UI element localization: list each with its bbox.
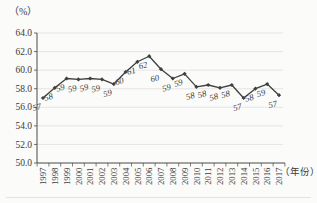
data-point-label: 59 bbox=[67, 82, 79, 94]
x-tick-label: 2006 bbox=[144, 167, 154, 185]
y-tick-label: 54.0 bbox=[15, 121, 32, 131]
data-point-label: 59 bbox=[90, 82, 102, 94]
data-point-label: 57 bbox=[232, 101, 244, 113]
x-tick-label: 2008 bbox=[168, 167, 178, 185]
x-tick-label: 1998 bbox=[50, 167, 60, 185]
x-tick-label: 2004 bbox=[121, 167, 131, 185]
line-chart: 64.062.060.058.056.054.052.050.057585959… bbox=[0, 0, 317, 203]
data-point-label: 62 bbox=[137, 59, 149, 71]
x-tick-label: 2005 bbox=[133, 167, 143, 185]
y-axis-unit-label: （%） bbox=[9, 7, 37, 17]
data-point-label: 61 bbox=[126, 65, 137, 77]
data-point-label: 58 bbox=[185, 90, 197, 102]
y-tick-label: 60.0 bbox=[15, 65, 32, 75]
data-point-marker bbox=[76, 77, 80, 81]
data-point-label: 57 bbox=[31, 101, 43, 113]
x-tick-label: 2001 bbox=[85, 168, 95, 186]
x-tick-label: 2002 bbox=[97, 168, 107, 186]
data-point-label: 60 bbox=[149, 72, 161, 84]
x-tick-label: 2012 bbox=[215, 168, 225, 186]
x-tick-label: 2000 bbox=[74, 167, 84, 185]
x-tick-label: 2010 bbox=[192, 167, 202, 185]
data-line bbox=[43, 56, 279, 98]
line-chart-figure: 64.062.060.058.056.054.052.050.057585959… bbox=[0, 0, 317, 203]
data-point-label: 58 bbox=[220, 88, 232, 100]
y-tick-label: 58.0 bbox=[15, 84, 32, 94]
x-tick-label: 2009 bbox=[180, 167, 190, 185]
data-point-label: 59 bbox=[173, 77, 185, 89]
data-point-marker bbox=[88, 76, 92, 80]
data-point-label: 58 bbox=[43, 91, 55, 103]
y-tick-label: 64.0 bbox=[15, 28, 32, 38]
x-tick-label: 2015 bbox=[251, 167, 261, 185]
x-tick-label: 1999 bbox=[62, 167, 72, 185]
data-point-marker bbox=[206, 83, 210, 87]
x-tick-label: 2003 bbox=[109, 167, 119, 185]
x-axis-unit-label: （年份） bbox=[280, 168, 317, 178]
data-point-label: 58 bbox=[244, 92, 256, 104]
y-tick-label: 50.0 bbox=[15, 158, 32, 168]
data-point-label: 59 bbox=[161, 81, 173, 93]
x-tick-label: 2014 bbox=[239, 167, 249, 185]
data-point-label: 58 bbox=[196, 88, 208, 100]
y-tick-label: 62.0 bbox=[15, 47, 32, 57]
y-tick-label: 52.0 bbox=[15, 140, 32, 150]
data-point-label: 60 bbox=[114, 75, 126, 87]
x-tick-label: 2016 bbox=[262, 167, 272, 185]
data-point-label: 59 bbox=[78, 81, 90, 93]
y-tick-label: 56.0 bbox=[15, 102, 32, 112]
data-point-label: 57 bbox=[267, 98, 279, 110]
data-point-marker bbox=[100, 77, 104, 81]
x-tick-label: 2011 bbox=[203, 168, 213, 185]
x-tick-label: 2007 bbox=[156, 167, 166, 185]
data-point-label: 58 bbox=[208, 91, 220, 103]
x-tick-label: 2013 bbox=[227, 167, 237, 185]
x-tick-label: 1997 bbox=[38, 167, 48, 185]
data-point-label: 59 bbox=[55, 81, 67, 93]
